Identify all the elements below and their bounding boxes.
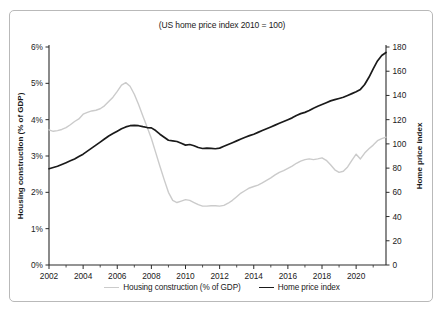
legend-swatch: [104, 287, 119, 288]
axes-group: 0%1%2%3%4%5%6%02040608010012014016018020…: [16, 42, 424, 281]
y-axis-left-tick-label: 5%: [31, 78, 44, 88]
legend-item[interactable]: Home price index: [259, 283, 340, 292]
y-axis-left-tick-label: 3%: [31, 151, 44, 161]
legend-label: Housing construction (% of GDP): [123, 283, 241, 292]
x-axis-tick-label: 2012: [210, 271, 229, 281]
y-axis-left-tick-label: 6%: [31, 42, 44, 52]
legend-label: Home price index: [278, 283, 340, 292]
x-axis-tick-label: 2018: [313, 271, 332, 281]
y-axis-right-tick-label: 180: [393, 42, 407, 52]
chart-legend: Housing construction (% of GDP)Home pric…: [10, 283, 434, 292]
clipped-caption-text: [0, 0, 444, 7]
series-line-2: [49, 52, 386, 168]
y-axis-right-tick-label: 60: [393, 187, 403, 197]
x-axis-tick-label: 2004: [74, 271, 93, 281]
y-axis-left-tick-label: 2%: [31, 187, 44, 197]
x-axis-tick-label: 2020: [347, 271, 366, 281]
series-group: [49, 52, 386, 206]
y-axis-right-title: Home price index: [415, 122, 424, 189]
y-axis-right-tick-label: 80: [393, 163, 403, 173]
y-axis-right-tick-label: 40: [393, 212, 403, 222]
series-line-1: [49, 83, 386, 207]
x-axis-tick-label: 2010: [176, 271, 195, 281]
legend-swatch: [259, 287, 274, 288]
y-axis-left-tick-label: 0%: [31, 260, 44, 270]
x-axis-tick-label: 2006: [108, 271, 127, 281]
chart-plot-area: 0%1%2%3%4%5%6%02040608010012014016018020…: [10, 11, 434, 303]
y-axis-left-tick-label: 4%: [31, 115, 44, 125]
x-axis-tick-label: 2002: [40, 271, 59, 281]
y-axis-left-tick-label: 1%: [31, 224, 44, 234]
y-axis-right-tick-label: 140: [393, 90, 407, 100]
chart-figure: (US home price index 2010 = 100) 0%1%2%3…: [9, 10, 433, 302]
y-axis-right-tick-label: 120: [393, 115, 407, 125]
legend-item[interactable]: Housing construction (% of GDP): [104, 283, 241, 292]
x-axis-tick-label: 2016: [279, 271, 298, 281]
y-axis-right-tick-label: 0: [393, 260, 398, 270]
y-axis-left-title: Housing construction (% of GDP): [16, 92, 25, 219]
y-axis-right-tick-label: 160: [393, 66, 407, 76]
y-axis-right-tick-label: 20: [393, 236, 403, 246]
y-axis-right-tick-label: 100: [393, 139, 407, 149]
x-axis-tick-label: 2014: [245, 271, 264, 281]
x-axis-tick-label: 2008: [142, 271, 161, 281]
